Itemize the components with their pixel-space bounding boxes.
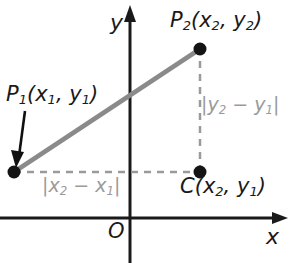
y-axis-arrowhead — [124, 5, 136, 22]
x-axis — [0, 212, 288, 224]
label-x-axis: x — [266, 226, 279, 248]
segment-p1-p2 — [14, 49, 200, 172]
label-y-axis: y — [110, 12, 123, 34]
figure-canvas — [0, 0, 289, 263]
distance-formula-figure: P2(x2, y2) P1(x1, y1) C(x2, y1) |y2 − y1… — [0, 0, 289, 263]
y-axis — [124, 5, 136, 263]
label-origin: O — [108, 221, 125, 242]
x-axis-arrowhead — [272, 212, 288, 224]
label-horizontal-distance: |x2 − x1| — [42, 176, 120, 197]
label-point-c: C(x2, y1) — [180, 176, 266, 198]
point-p2 — [194, 43, 207, 56]
label-point-p1: P1(x1, y1) — [6, 84, 98, 106]
label-vertical-distance: |y2 − y1| — [201, 95, 279, 116]
pointer-arrow-to-p1 — [11, 111, 25, 168]
point-p1 — [8, 166, 21, 179]
label-point-p2: P2(x2, y2) — [170, 10, 262, 32]
